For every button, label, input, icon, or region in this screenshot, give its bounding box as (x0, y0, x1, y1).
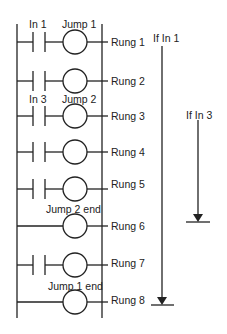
coil-icon (63, 30, 87, 54)
rung-label-3: Rung 3 (111, 110, 145, 122)
jump-arrow-if-in1 (151, 46, 174, 305)
rung-3 (17, 104, 108, 128)
arrow-label-if-in3: If In 3 (186, 109, 212, 121)
coil-label-jump2-end: Jump 2 end (46, 203, 101, 215)
arrowhead-icon (157, 297, 167, 305)
arrow-label-if-in1: If In 1 (153, 32, 179, 44)
rung-label-4: Rung 4 (111, 146, 145, 158)
rung-8 (17, 290, 108, 314)
rung-label-1: Rung 1 (111, 36, 145, 48)
jump-arrow-if-in3 (186, 120, 210, 222)
rung-label-7: Rung 7 (111, 257, 145, 269)
ladder-diagram: In 1 Jump 1 In 3 Jump 2 Jump 2 end Jump … (0, 0, 227, 334)
coil-label-jump2: Jump 2 (62, 93, 97, 105)
rung-label-6: Rung 6 (111, 220, 145, 232)
contact-label-in3: In 3 (29, 93, 47, 105)
coil-label-jump1: Jump 1 (62, 18, 97, 30)
arrowhead-icon (193, 214, 203, 222)
coil-label-jump1-end: Jump 1 end (48, 280, 103, 292)
rung-1 (17, 30, 108, 54)
rung-label-8: Rung 8 (111, 294, 145, 306)
rung-6 (17, 214, 108, 238)
contact-label-in1: In 1 (29, 18, 47, 30)
rung-4 (17, 140, 108, 164)
rung-7 (17, 253, 108, 277)
rung-label-2: Rung 2 (111, 75, 145, 87)
rung-2 (17, 69, 108, 93)
rung-5 (17, 177, 108, 201)
rung-label-5: Rung 5 (111, 178, 145, 190)
